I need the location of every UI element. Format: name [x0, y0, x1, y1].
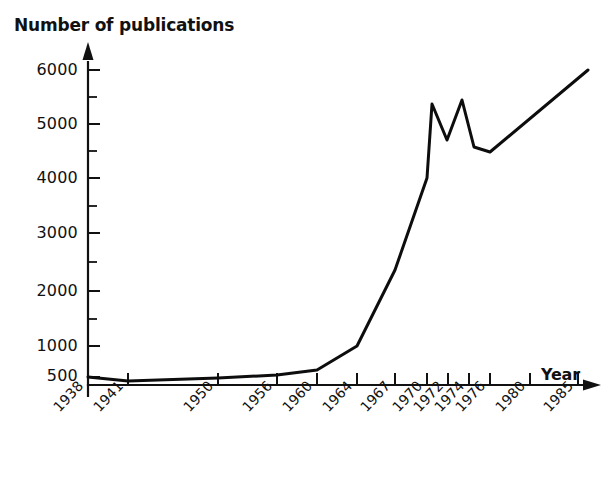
data-series-line [88, 70, 588, 381]
y-axis-arrow-icon [83, 42, 94, 60]
x-axis-title: Year [541, 365, 580, 384]
y-minor-ticks [88, 97, 97, 319]
chart-canvas [0, 0, 613, 481]
x-axis-arrow-icon [583, 380, 601, 391]
y-axis-group [83, 42, 94, 396]
chart-title: Number of publications [14, 15, 234, 35]
y-major-ticks [88, 70, 100, 377]
publications-line-chart: Number of publications Year 6000 5000 40… [0, 0, 613, 481]
